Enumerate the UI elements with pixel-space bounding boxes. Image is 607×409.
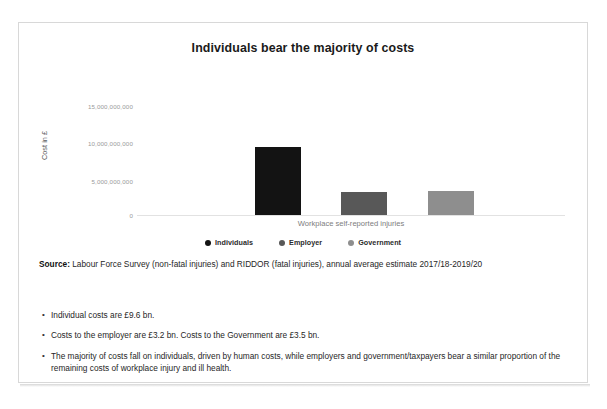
source-note: Source: Labour Force Survey (non-fatal i… [39,259,573,271]
bar-government [428,191,474,215]
list-item: • Individual costs are £9.6 bn. [39,309,573,321]
legend-label: Employer [289,238,322,247]
list-item-text: Individual costs are £9.6 bn. [51,309,573,321]
slide-card: Individuals bear the majority of costs C… [18,22,588,383]
bullet-icon: • [39,329,51,341]
legend-item-government: Government [348,238,401,247]
list-item-text: Costs to the employer are £3.2 bn. Costs… [51,329,573,341]
x-axis-baseline [137,215,565,216]
bullet-icon: • [39,350,51,362]
legend-swatch-icon [205,240,211,246]
bar-employer [341,192,387,215]
bullet-icon: • [39,309,51,321]
source-text: Labour Force Survey (non-fatal injuries)… [70,259,482,269]
bar-chart: Individuals bear the majority of costs C… [19,23,587,255]
chart-title: Individuals bear the majority of costs [19,41,587,55]
chart-legend: Individuals Employer Government [19,238,587,247]
legend-item-individuals: Individuals [205,238,253,247]
legend-swatch-icon [279,240,285,246]
y-axis-tick-label: 15,000,000,000 [57,103,133,110]
y-axis-tick-label: 5,000,000,000 [57,178,133,185]
bar-individuals [255,147,301,215]
legend-label: Individuals [215,238,253,247]
legend-item-employer: Employer [279,238,322,247]
y-axis-tick-label: 0 [57,212,133,219]
legend-label: Government [358,238,401,247]
card-drop-shadow [20,384,590,387]
y-axis-label: Cost in £ [40,116,49,176]
y-axis-tick-label: 10,000,000,000 [57,140,133,147]
list-item: • Costs to the employer are £3.2 bn. Cos… [39,329,573,341]
list-item-text: The majority of costs fall on individual… [51,350,573,375]
list-item: • The majority of costs fall on individu… [39,350,573,375]
source-label: Source: [39,259,70,269]
plot-area [137,105,565,215]
bullet-list: • Individual costs are £9.6 bn. • Costs … [39,309,573,383]
legend-swatch-icon [348,240,354,246]
x-axis-label: Workplace self-reported injuries [137,219,565,228]
